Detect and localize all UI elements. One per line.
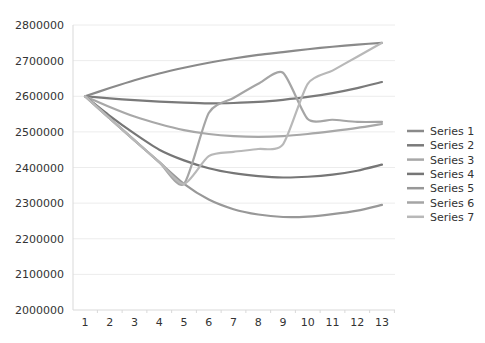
y-axis-ticks: 2000000210000022000002300000240000025000… xyxy=(15,19,64,317)
x-tick-label: 4 xyxy=(156,316,163,329)
legend-label: Series 7 xyxy=(430,211,474,224)
legend-item: Series 2 xyxy=(407,139,474,152)
x-tick-label: 9 xyxy=(280,316,287,329)
legend-item: Series 6 xyxy=(407,197,474,210)
x-tick-label: 10 xyxy=(301,316,315,329)
x-tick-label: 3 xyxy=(131,316,138,329)
y-tick-label: 2100000 xyxy=(15,268,64,281)
x-tick-label: 1 xyxy=(82,316,89,329)
x-tick-label: 6 xyxy=(205,316,212,329)
legend: Series 1Series 2Series 3Series 4Series 5… xyxy=(407,125,474,224)
legend-item: Series 5 xyxy=(407,182,474,195)
x-tick-label: 13 xyxy=(375,316,389,329)
x-tick-label: 7 xyxy=(230,316,237,329)
y-tick-label: 2300000 xyxy=(15,197,64,210)
x-axis-ticks: 12345678910111213 xyxy=(82,310,395,329)
y-tick-label: 2800000 xyxy=(15,19,64,32)
x-tick-label: 12 xyxy=(350,316,364,329)
y-tick-label: 2600000 xyxy=(15,90,64,103)
legend-label: Series 4 xyxy=(430,168,474,181)
x-tick-label: 8 xyxy=(255,316,262,329)
series-line-1 xyxy=(85,43,382,96)
legend-label: Series 2 xyxy=(430,139,474,152)
legend-item: Series 7 xyxy=(407,211,474,224)
x-tick-label: 11 xyxy=(326,316,340,329)
series-lines xyxy=(85,43,382,217)
y-tick-label: 2200000 xyxy=(15,233,64,246)
line-chart: 2000000210000022000002300000240000025000… xyxy=(0,0,485,343)
y-tick-label: 2000000 xyxy=(15,304,64,317)
y-tick-label: 2500000 xyxy=(15,126,64,139)
legend-item: Series 1 xyxy=(407,125,474,138)
series-line-2 xyxy=(85,82,382,103)
legend-label: Series 1 xyxy=(430,125,474,138)
x-tick-label: 2 xyxy=(106,316,113,329)
x-tick-label: 5 xyxy=(181,316,188,329)
series-line-7 xyxy=(85,43,382,184)
legend-item: Series 4 xyxy=(407,168,474,181)
legend-label: Series 6 xyxy=(430,197,474,210)
legend-label: Series 3 xyxy=(430,154,474,167)
y-tick-label: 2400000 xyxy=(15,162,64,175)
legend-label: Series 5 xyxy=(430,182,474,195)
y-tick-label: 2700000 xyxy=(15,55,64,68)
legend-item: Series 3 xyxy=(407,154,474,167)
